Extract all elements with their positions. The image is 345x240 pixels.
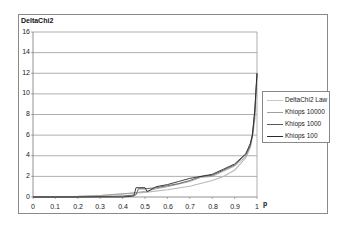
legend-label: Khiops 10000 bbox=[285, 108, 325, 115]
legend-swatch bbox=[267, 112, 283, 113]
legend-label: DeltaChi2 Law bbox=[285, 96, 327, 103]
legend-swatch bbox=[267, 136, 283, 137]
legend-swatch bbox=[267, 100, 283, 101]
legend-label: Khiops 1000 bbox=[285, 120, 321, 127]
legend-item: Khiops 10000 bbox=[267, 107, 329, 117]
legend-swatch bbox=[267, 124, 283, 125]
legend: DeltaChi2 Law Khiops 10000 Khiops 1000 K… bbox=[262, 91, 330, 143]
legend-label: Khiops 100 bbox=[285, 132, 318, 139]
legend-item: DeltaChi2 Law bbox=[267, 95, 329, 105]
legend-item: Khiops 100 bbox=[267, 131, 329, 141]
legend-item: Khiops 1000 bbox=[267, 119, 329, 129]
